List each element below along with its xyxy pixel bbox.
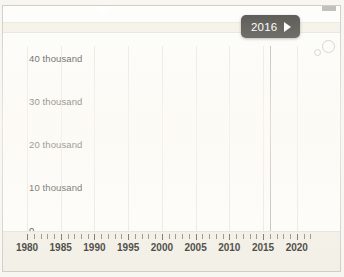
x-tick-2019 bbox=[290, 234, 291, 239]
chart-figure: 010 thousand20 thousand30 thousand40 tho… bbox=[2, 5, 341, 272]
x-tick-2011 bbox=[236, 234, 237, 239]
x-tick-1999 bbox=[155, 234, 156, 239]
highlight-gridline-2016[interactable] bbox=[270, 46, 271, 231]
x-tick-1981 bbox=[34, 234, 35, 239]
page-notch bbox=[97, 6, 109, 15]
circle-outline-icon bbox=[322, 40, 335, 53]
x-tick-2020 bbox=[297, 234, 298, 240]
tooltip-year-label: 2016 bbox=[251, 21, 277, 33]
x-tick-2004 bbox=[189, 234, 190, 239]
x-tick-2014 bbox=[256, 234, 257, 239]
x-tick-1986 bbox=[68, 234, 69, 239]
x-tick-2001 bbox=[169, 234, 170, 239]
x-tick-2017 bbox=[277, 234, 278, 239]
y-tick-label-40000: 40 thousand bbox=[29, 53, 82, 64]
x-tick-2018 bbox=[283, 234, 284, 239]
x-tick-1995 bbox=[128, 234, 129, 240]
x-tick-2003 bbox=[182, 234, 183, 239]
x-tick-2016 bbox=[270, 234, 271, 239]
x-tick-1980 bbox=[27, 234, 28, 240]
x-tick-2013 bbox=[250, 234, 251, 239]
gridline-2005 bbox=[196, 46, 197, 231]
x-axis-tick-labels: 198019851990199520002005201020152020 bbox=[3, 242, 340, 258]
x-tick-1989 bbox=[88, 234, 89, 239]
x-tick-2021 bbox=[304, 234, 305, 239]
year-marker-tooltip[interactable]: 2016 bbox=[241, 15, 300, 38]
x-tick-1991 bbox=[101, 234, 102, 239]
x-tick-2012 bbox=[243, 234, 244, 239]
x-tick-2015 bbox=[263, 234, 264, 240]
gridline-2015 bbox=[263, 46, 264, 231]
x-tick-1994 bbox=[121, 234, 122, 239]
x-tick-label-2010: 2010 bbox=[218, 242, 240, 253]
x-tick-label-2015: 2015 bbox=[252, 242, 274, 253]
gridline-2020 bbox=[297, 46, 298, 231]
x-tick-label-2000: 2000 bbox=[151, 242, 173, 253]
x-tick-2005 bbox=[196, 234, 197, 240]
x-tick-1982 bbox=[41, 234, 42, 239]
x-tick-1998 bbox=[148, 234, 149, 239]
play-triangle-icon[interactable] bbox=[284, 22, 291, 32]
x-tick-label-1995: 1995 bbox=[117, 242, 139, 253]
x-tick-2022 bbox=[310, 234, 311, 239]
gridline-1990 bbox=[94, 46, 95, 231]
x-tick-1984 bbox=[54, 234, 55, 239]
x-tick-1990 bbox=[94, 234, 95, 240]
x-tick-2010 bbox=[229, 234, 230, 240]
x-tick-1987 bbox=[74, 234, 75, 239]
x-tick-label-1990: 1990 bbox=[83, 242, 105, 253]
x-tick-1983 bbox=[47, 234, 48, 239]
y-tick-label-20000: 20 thousand bbox=[29, 139, 82, 150]
x-tick-1992 bbox=[108, 234, 109, 239]
x-tick-1996 bbox=[135, 234, 136, 239]
gridline-1980 bbox=[27, 46, 28, 231]
x-tick-1985 bbox=[61, 234, 62, 240]
x-tick-2006 bbox=[202, 234, 203, 239]
decorative-circles bbox=[314, 39, 336, 59]
circle-outline-icon bbox=[314, 49, 321, 56]
x-tick-label-1985: 1985 bbox=[50, 242, 72, 253]
gridline-1995 bbox=[128, 46, 129, 231]
x-axis-ticks bbox=[27, 234, 319, 241]
x-tick-label-2020: 2020 bbox=[286, 242, 308, 253]
x-tick-2009 bbox=[223, 234, 224, 239]
x-tick-2002 bbox=[175, 234, 176, 239]
scanned-page: 010 thousand20 thousand30 thousand40 tho… bbox=[0, 0, 344, 277]
y-tick-label-10000: 10 thousand bbox=[29, 182, 82, 193]
y-tick-label-30000: 30 thousand bbox=[29, 96, 82, 107]
top-right-tab bbox=[322, 6, 336, 11]
x-tick-label-2005: 2005 bbox=[184, 242, 206, 253]
x-tick-1988 bbox=[81, 234, 82, 239]
x-tick-2000 bbox=[162, 234, 163, 240]
x-tick-1997 bbox=[142, 234, 143, 239]
x-tick-2007 bbox=[209, 234, 210, 239]
gridline-2000 bbox=[162, 46, 163, 231]
x-tick-2008 bbox=[216, 234, 217, 239]
x-tick-1993 bbox=[115, 234, 116, 239]
x-tick-label-1980: 1980 bbox=[16, 242, 38, 253]
gridline-2010 bbox=[229, 46, 230, 231]
